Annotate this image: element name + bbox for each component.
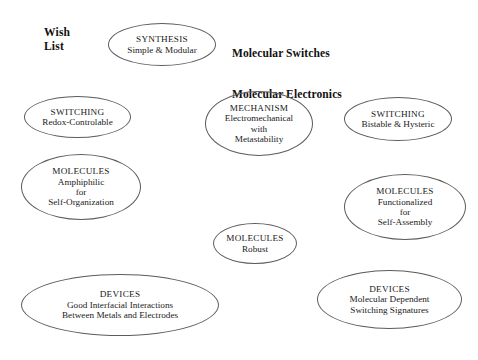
ellipse-node-line: Self-Assembly bbox=[378, 217, 433, 227]
ellipse-node-line: for bbox=[76, 187, 87, 197]
ellipse-node-heading: MOLECULES bbox=[376, 186, 433, 196]
ellipse-node-line: Electromechanical bbox=[225, 113, 293, 123]
ellipse-node-heading: DEVICES bbox=[369, 284, 410, 294]
ellipse-node-heading: MECHANISM bbox=[230, 103, 288, 113]
ellipse-node-heading: SWITCHING bbox=[371, 109, 425, 119]
ellipse-node-line: Self-Organization bbox=[48, 197, 114, 207]
ellipse-node-line: Good Interfacial Interactions bbox=[67, 300, 173, 310]
ellipse-node-line: Molecular Dependent bbox=[350, 294, 430, 304]
ellipse-node-molecules-amphiphilic: MOLECULESAmphiphilicforSelf-Organization bbox=[21, 154, 141, 220]
ellipse-node-mechanism: MECHANISMElectromechanicalwithMetastabil… bbox=[205, 91, 313, 156]
ellipse-node-devices-interfacial: DEVICESGood Interfacial InteractionsBetw… bbox=[21, 274, 219, 336]
ellipse-node-heading: MOLECULES bbox=[52, 166, 109, 176]
ellipse-node-line: Amphiphilic bbox=[58, 177, 104, 187]
ellipse-node-line: Robust bbox=[242, 244, 268, 254]
wish-list-label: Wish List bbox=[44, 26, 70, 53]
ellipse-node-switching-bistable: SWITCHINGBistable & Hysteric bbox=[344, 97, 452, 141]
ellipse-node-heading: DEVICES bbox=[100, 289, 141, 299]
ellipse-node-line: Simple & Modular bbox=[127, 45, 196, 55]
ellipse-node-molecules-robust: MOLECULESRobust bbox=[213, 223, 297, 264]
ellipse-node-switching-redox: SWITCHINGRedox-Controlable bbox=[24, 96, 131, 138]
diagram-title-line-1: Molecular Switches bbox=[232, 47, 342, 61]
ellipse-node-heading: SYNTHESIS bbox=[136, 34, 188, 44]
ellipse-node-line: Metastability bbox=[235, 134, 283, 144]
ellipse-node-line: Bistable & Hysteric bbox=[362, 119, 435, 129]
diagram-canvas: Wish List Molecular Switches Molecular E… bbox=[0, 0, 478, 360]
ellipse-node-line: Functionalized bbox=[378, 197, 433, 207]
ellipse-node-line: Between Metals and Electrodes bbox=[62, 310, 178, 320]
ellipse-node-line: for bbox=[400, 207, 411, 217]
ellipse-node-line: with bbox=[251, 124, 267, 134]
ellipse-node-molecules-functionalized: MOLECULESFunctionalizedforSelf-Assembly bbox=[344, 174, 466, 240]
ellipse-node-synthesis: SYNTHESISSimple & Modular bbox=[108, 23, 216, 66]
ellipse-node-line: Switching Signatures bbox=[350, 305, 428, 315]
ellipse-node-line: Redox-Controlable bbox=[42, 117, 112, 127]
ellipse-node-heading: MOLECULES bbox=[226, 233, 283, 243]
ellipse-node-heading: SWITCHING bbox=[51, 107, 105, 117]
ellipse-node-devices-signatures: DEVICESMolecular DependentSwitching Sign… bbox=[317, 270, 462, 329]
